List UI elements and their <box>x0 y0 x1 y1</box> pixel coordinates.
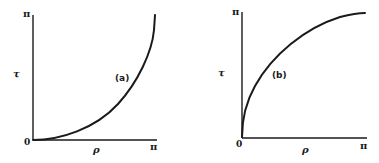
panel-a-y-label: τ <box>13 69 20 79</box>
panel-a-curve <box>33 15 155 140</box>
panel-a-y-top-tick: π <box>23 9 30 19</box>
panel-a-tag: (a) <box>115 74 129 83</box>
panel-b-x-label: ρ <box>302 145 309 155</box>
panel-a-axes <box>33 15 157 140</box>
panel-b-x-end-tick: π <box>360 141 367 151</box>
panel-b-origin-tick: 0 <box>236 140 242 149</box>
panel-b-curve <box>242 13 365 137</box>
panel-a-x-end-tick: π <box>150 142 157 152</box>
figure-canvas <box>0 0 379 163</box>
panel-b-tag: (b) <box>272 71 287 80</box>
panel-a-x-label: ρ <box>93 145 100 155</box>
panel-b-y-label: τ <box>218 68 225 78</box>
panel-b-y-top-tick: π <box>232 7 239 17</box>
panel-a-origin-tick: 0 <box>24 138 30 147</box>
